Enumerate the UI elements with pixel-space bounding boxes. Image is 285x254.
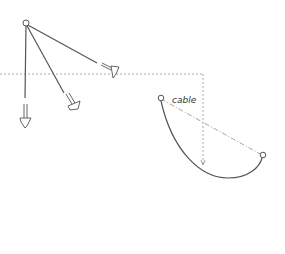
cable-anchor-left-icon xyxy=(158,95,164,101)
arrow-right-icon xyxy=(101,63,119,78)
diagram-canvas: cable xyxy=(0,0,285,254)
arrow-diagonal-icon xyxy=(66,93,80,110)
arrow-down-icon xyxy=(20,104,31,128)
cable-curve xyxy=(161,101,262,178)
force-vectors xyxy=(25,24,97,98)
pivot-point-icon xyxy=(23,20,29,26)
cable-anchor-right-icon xyxy=(260,152,266,158)
cable-label: cable xyxy=(172,95,197,105)
cable-chord-line xyxy=(161,99,262,155)
